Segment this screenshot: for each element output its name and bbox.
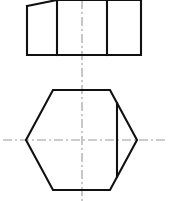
- front-view: [27, 0, 141, 55]
- front-view-outline: [27, 0, 141, 55]
- drawing-sheet: [0, 0, 169, 201]
- technical-drawing-canvas: [0, 0, 169, 201]
